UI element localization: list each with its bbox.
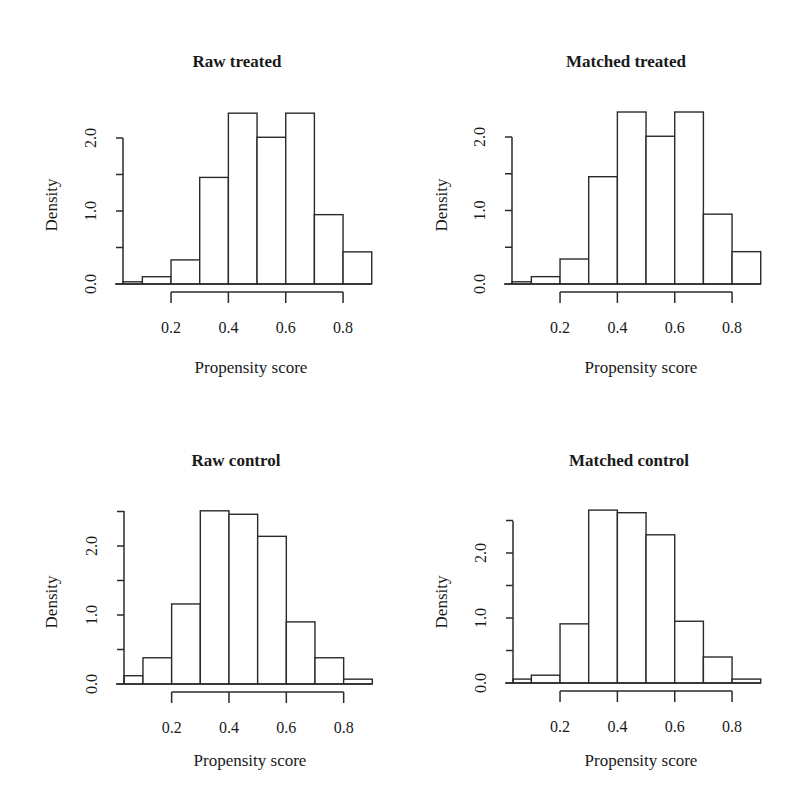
histogram-bar xyxy=(286,622,315,684)
x-tick-label: 0.2 xyxy=(162,719,182,736)
y-tick-label: 2.0 xyxy=(472,543,489,563)
histogram-figure: Raw treated Density Propensity score 0.0… xyxy=(0,0,798,794)
panel-title: Matched treated xyxy=(566,52,687,71)
panel-raw-treated: Raw treated Density Propensity score 0.0… xyxy=(42,52,372,377)
histogram-bar xyxy=(617,112,646,284)
histogram-bar xyxy=(286,113,315,284)
histogram-bar xyxy=(703,214,732,284)
histogram-bar xyxy=(560,259,589,284)
histogram-bars xyxy=(124,511,372,684)
y-tick-label: 2.0 xyxy=(82,128,99,148)
histogram-bar xyxy=(675,621,704,683)
y-tick-label: 0.0 xyxy=(472,673,489,693)
histogram-bar xyxy=(315,658,344,684)
histogram-bar xyxy=(142,277,171,284)
histogram-bar xyxy=(589,510,618,683)
histogram-bar xyxy=(646,535,675,683)
histogram-bar xyxy=(560,624,589,683)
x-tick-label: 0.4 xyxy=(218,319,238,336)
histogram-bar xyxy=(531,675,560,683)
x-tick-label: 0.2 xyxy=(550,718,570,735)
histogram-bar xyxy=(229,514,258,684)
histogram-bar xyxy=(617,513,646,683)
histogram-bar xyxy=(732,252,761,284)
histogram-bar xyxy=(171,260,200,284)
histogram-bars xyxy=(513,510,761,683)
histogram-bar xyxy=(531,277,560,284)
x-tick-label: 0.8 xyxy=(333,319,353,336)
y-tick-label: 1.0 xyxy=(82,201,99,221)
x-axis-label: Propensity score xyxy=(585,358,698,377)
x-tick-label: 0.2 xyxy=(550,319,570,336)
y-tick-label: 2.0 xyxy=(83,536,100,556)
panel-title: Matched control xyxy=(569,451,689,470)
histogram-bar xyxy=(703,657,732,683)
x-axis-label: Propensity score xyxy=(195,358,308,377)
x-tick-label: 0.6 xyxy=(665,319,685,336)
x-tick-label: 0.8 xyxy=(722,319,742,336)
histogram-bars xyxy=(123,113,372,284)
y-tick-label: 0.0 xyxy=(471,274,488,294)
panel-title: Raw control xyxy=(192,451,281,470)
y-tick-label: 1.0 xyxy=(471,201,488,221)
histogram-bar xyxy=(314,215,343,284)
histogram-bar xyxy=(200,511,229,684)
y-tick-label: 1.0 xyxy=(472,608,489,628)
histogram-bar xyxy=(200,177,229,284)
histogram-bars xyxy=(512,112,761,284)
y-tick-label: 0.0 xyxy=(82,274,99,294)
x-tick-label: 0.4 xyxy=(607,319,627,336)
histogram-bar xyxy=(143,658,172,684)
x-tick-label: 0.4 xyxy=(219,719,239,736)
panel-matched-control: Matched control Density Propensity score… xyxy=(432,451,761,770)
histogram-bar xyxy=(646,136,675,284)
y-axis-label: Density xyxy=(42,575,61,628)
x-tick-label: 0.4 xyxy=(607,718,627,735)
x-axis-label: Propensity score xyxy=(194,751,307,770)
y-axis-label: Density xyxy=(432,178,451,231)
histogram-bar xyxy=(257,137,286,284)
panel-title: Raw treated xyxy=(193,52,282,71)
x-tick-label: 0.2 xyxy=(161,319,181,336)
histogram-bar xyxy=(228,113,257,284)
y-axis-label: Density xyxy=(432,575,451,628)
y-tick-label: 1.0 xyxy=(83,605,100,625)
y-tick-label: 0.0 xyxy=(83,674,100,694)
x-tick-label: 0.8 xyxy=(334,719,354,736)
histogram-bar xyxy=(124,676,143,684)
histogram-bar xyxy=(675,112,704,284)
y-tick-label: 2.0 xyxy=(471,127,488,147)
x-tick-label: 0.6 xyxy=(276,319,296,336)
x-tick-label: 0.8 xyxy=(722,718,742,735)
panel-matched-treated: Matched treated Density Propensity score… xyxy=(432,52,761,377)
y-axis-label: Density xyxy=(42,178,61,231)
x-axis-label: Propensity score xyxy=(585,751,698,770)
histogram-bar xyxy=(172,604,201,684)
histogram-bar xyxy=(589,177,618,284)
x-tick-label: 0.6 xyxy=(665,718,685,735)
x-tick-label: 0.6 xyxy=(276,719,296,736)
histogram-bar xyxy=(258,536,287,684)
histogram-bar xyxy=(343,252,372,284)
panel-raw-control: Raw control Density Propensity score 0.0… xyxy=(42,451,372,770)
